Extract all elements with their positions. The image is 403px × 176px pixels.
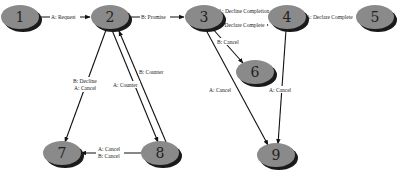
- edge-label-4-9: A: Cancel: [269, 87, 292, 93]
- node-label-7: 7: [58, 145, 67, 161]
- edge-label-2-7-line2: A: Cancel: [74, 85, 97, 91]
- node-label-4: 4: [283, 9, 292, 25]
- node-5[interactable]: 5: [356, 5, 397, 32]
- edge-label-4-5: A: Declare Complete: [306, 14, 353, 20]
- edge-label-2-8: A: Counter: [113, 82, 138, 88]
- edge-label-4-3: A: Decline Completion: [218, 8, 270, 14]
- edge-label-8-7-line2: B: Cancel: [98, 153, 120, 159]
- node-7[interactable]: 7: [43, 141, 84, 168]
- edge-3-6: [212, 28, 243, 63]
- node-label-2: 2: [106, 9, 115, 25]
- node-6[interactable]: 6: [236, 60, 277, 87]
- edge-label-2-7-line1: B: Decline: [73, 78, 97, 84]
- state-diagram: A: Request B: Promise A: Decline Complet…: [0, 0, 403, 176]
- edge-label-3-9: A: Cancel: [209, 87, 232, 93]
- edge-label-8-7-line1: A: Cancel: [98, 146, 121, 152]
- edge-label-2-3: B: Promise: [141, 14, 166, 20]
- node-label-3: 3: [200, 9, 209, 25]
- node-label-8: 8: [156, 145, 165, 161]
- node-label-6: 6: [251, 64, 260, 80]
- edge-label-1-2: A: Request: [51, 14, 76, 20]
- node-9[interactable]: 9: [257, 143, 298, 170]
- nodes: 1 2 3 4 5 6 7: [1, 5, 397, 170]
- node-2[interactable]: 2: [91, 5, 132, 32]
- node-4[interactable]: 4: [268, 5, 309, 32]
- node-label-9: 9: [272, 147, 281, 163]
- edge-label-3-6: B: Cancel: [217, 39, 239, 45]
- node-1[interactable]: 1: [1, 5, 42, 32]
- edge-label-8-2: B: Counter: [139, 69, 163, 75]
- node-label-5: 5: [371, 9, 380, 25]
- node-label-1: 1: [16, 9, 25, 25]
- node-8[interactable]: 8: [141, 141, 182, 168]
